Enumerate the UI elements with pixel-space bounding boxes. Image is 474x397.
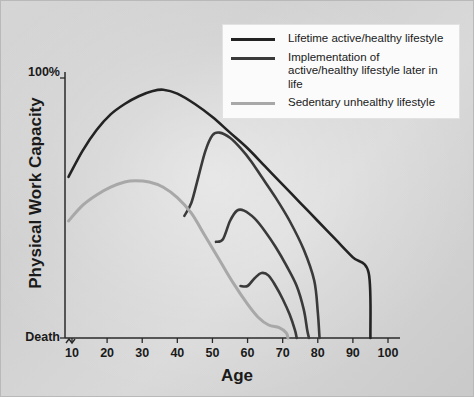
y-axis-tick-label-min: Death	[2, 330, 60, 344]
legend-swatch-wrap	[231, 32, 279, 41]
data-series-group	[68, 90, 370, 338]
legend-item-lifetime-active: Lifetime active/healthy lifestyle	[231, 32, 451, 46]
legend-line-swatch-icon	[231, 57, 275, 60]
x-axis-tick-label: 70	[263, 346, 303, 360]
legend-swatch-wrap	[231, 51, 279, 60]
legend-item-implementation-later: Implementation of active/healthy lifesty…	[231, 51, 451, 92]
legend-label-implementation-later: Implementation of active/healthy lifesty…	[288, 51, 451, 92]
x-axis-tick-label: 80	[298, 346, 338, 360]
legend-line-swatch-icon	[231, 38, 275, 41]
x-axis-tick-label: 20	[87, 346, 127, 360]
legend-line-swatch-icon	[231, 102, 275, 105]
legend: Lifetime active/healthy lifestyle Implem…	[222, 24, 460, 119]
legend-label-sedentary: Sedentary unhealthy lifestyle	[288, 96, 451, 110]
legend-swatch-wrap	[231, 96, 279, 105]
x-axis-tick-label: 40	[157, 346, 197, 360]
legend-item-sedentary: Sedentary unhealthy lifestyle	[231, 96, 451, 110]
x-axis-tick-label: 90	[333, 346, 373, 360]
x-axis-tick-label: 60	[228, 346, 268, 360]
x-axis-tick-label: 50	[192, 346, 232, 360]
legend-label-lifetime-active: Lifetime active/healthy lifestyle	[288, 32, 451, 46]
x-axis-tick-label: 10	[52, 346, 92, 360]
y-axis-title: Physical Work Capacity	[26, 73, 46, 313]
axis-break-icon	[66, 339, 75, 343]
series-line-0	[68, 90, 370, 338]
chart-figure: Physical Work Capacity Age 100% Death 10…	[0, 0, 474, 397]
x-axis-tick-label: 100	[368, 346, 408, 360]
series-line-4	[68, 181, 287, 338]
x-axis-title: Age	[0, 366, 474, 386]
x-axis-tick-label: 30	[122, 346, 162, 360]
y-axis-tick-label-max: 100%	[2, 65, 60, 79]
